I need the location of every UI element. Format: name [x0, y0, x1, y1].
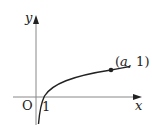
point-label-var: a: [120, 54, 128, 69]
origin-label: O: [22, 98, 33, 113]
x-axis-label: x: [135, 98, 143, 113]
point-a-1: [109, 68, 114, 73]
point-label-rest: , 1): [128, 54, 150, 69]
log-graph: y x O 1 (a, 1): [0, 0, 152, 130]
y-axis-arrow-icon: [33, 15, 39, 24]
x-tick-label-1: 1: [42, 99, 50, 114]
point-label: (a, 1): [115, 54, 149, 69]
log-curve: [39, 67, 131, 125]
y-axis-label: y: [24, 10, 33, 25]
